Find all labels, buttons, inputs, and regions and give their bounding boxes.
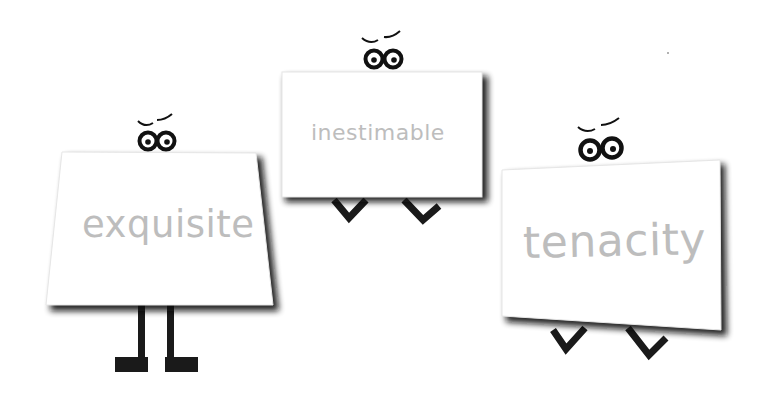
eyes-icon bbox=[362, 31, 402, 68]
speck bbox=[667, 52, 669, 54]
legs-icon bbox=[334, 200, 439, 220]
legs-icon bbox=[553, 328, 666, 355]
illustration bbox=[0, 0, 757, 400]
eyes-icon bbox=[578, 118, 622, 160]
word-label: exquisite bbox=[82, 203, 255, 246]
word-label: tenacity bbox=[522, 213, 706, 268]
word-label: inestimable bbox=[311, 120, 445, 145]
eyes-icon bbox=[138, 114, 175, 150]
